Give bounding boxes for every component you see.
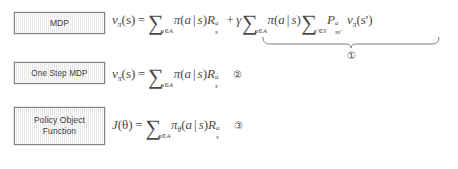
formula-mdp: vπ(s)=∑a∈Aπ(a|s)Ras+γ∑a∈Aπ(a|s)∑s'∈SPass… (112, 12, 372, 35)
math-reward-R-subscript: s (215, 82, 218, 90)
math-v-next-argument: (s') (356, 12, 372, 27)
math-reward-R-superscript: a (215, 73, 219, 81)
math-summation-3: ∑s'∈S (301, 14, 326, 35)
label-box-mdp-text: MDP (48, 18, 71, 29)
math-conditional-bar: | (192, 117, 199, 132)
math-transition-P-subscript: ss' (335, 28, 342, 36)
equation-marker-3: ③ (225, 120, 243, 131)
math-conditional-bar: | (191, 66, 198, 81)
math-transition-P-superscript: a (335, 19, 339, 27)
math-reward-R-subscript: s (216, 133, 219, 141)
equation-marker-1: ① (262, 50, 440, 61)
math-gamma: γ (236, 12, 241, 27)
label-box-one-step-mdp-text: One Step MDP (29, 68, 89, 79)
label-box-mdp[interactable]: MDP (14, 12, 105, 34)
math-transition-P: P (327, 12, 335, 27)
math-reward-R: R (207, 12, 215, 27)
math-equals: = (133, 117, 145, 132)
math-reward-R-subscript: s (215, 28, 218, 36)
math-summation-1-limits: a∈A (161, 81, 173, 89)
math-paren-close-2: ) (297, 12, 301, 27)
math-equals: = (135, 12, 147, 27)
math-v-argument: (s) (122, 66, 136, 81)
math-reward-R-superscript: a (215, 19, 219, 27)
math-summation-3-limits: s'∈S (314, 27, 326, 35)
math-summation-2: ∑a∈A (242, 14, 267, 35)
label-box-policy-object-function-text: Policy Object Function (32, 115, 87, 137)
math-equals: = (135, 66, 147, 81)
math-v-argument: (s) (122, 12, 136, 27)
math-summation-1-limits: a∈A (158, 132, 170, 140)
math-plus: + (224, 12, 236, 27)
math-summation-1: ∑a∈A (148, 68, 173, 89)
math-summation-2-limits: a∈A (255, 27, 267, 35)
underbrace-group-1: ① (262, 37, 440, 61)
label-box-one-step-mdp[interactable]: One Step MDP (14, 62, 105, 84)
math-summation-1: ∑a∈A (148, 14, 173, 35)
formula-policy-object-function: J(θ)=∑a∈Aπθ(a|s)Ras③ (112, 117, 243, 140)
math-reward-R: R (207, 66, 215, 81)
math-reward-R-superscript: a (216, 124, 220, 132)
formula-one-step-mdp: vπ(s)=∑a∈Aπ(a|s)Ras② (112, 66, 242, 89)
underbrace-icon (262, 37, 440, 49)
math-summation-1-limits: a∈A (161, 27, 173, 35)
label-box-policy-object-function[interactable]: Policy Object Function (14, 107, 105, 145)
math-summation-1: ∑a∈A (146, 119, 171, 140)
math-action-a-2: a (278, 12, 285, 27)
equation-sheet: MDP vπ(s)=∑a∈Aπ(a|s)Ras+γ∑a∈Aπ(a|s)∑s'∈S… (0, 0, 458, 169)
equation-marker-2: ② (224, 69, 242, 80)
math-objective-J-argument: (θ) (118, 117, 133, 132)
math-reward-R: R (208, 117, 216, 132)
math-conditional-bar: | (191, 12, 198, 27)
